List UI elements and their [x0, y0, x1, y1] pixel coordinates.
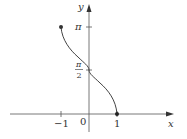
- tick-label-pi-half-den: 2: [77, 71, 82, 80]
- x-axis-label: x: [168, 118, 174, 129]
- y-axis-label: y: [77, 1, 84, 12]
- x-axis-arrow-icon: [166, 112, 174, 117]
- tick-label-pi-half-num: π: [75, 60, 82, 69]
- arccos-plot: y x π π 2 −1 0 1: [0, 0, 187, 139]
- endpoint-neg1-pi: [59, 25, 63, 29]
- tick-label-neg1: −1: [54, 118, 69, 129]
- endpoint-1-0: [115, 112, 119, 116]
- tick-label-pi: π: [74, 21, 82, 32]
- tick-label-1: 1: [114, 118, 120, 129]
- y-axis-arrow-icon: [87, 4, 92, 12]
- tick-label-0: 0: [80, 116, 86, 127]
